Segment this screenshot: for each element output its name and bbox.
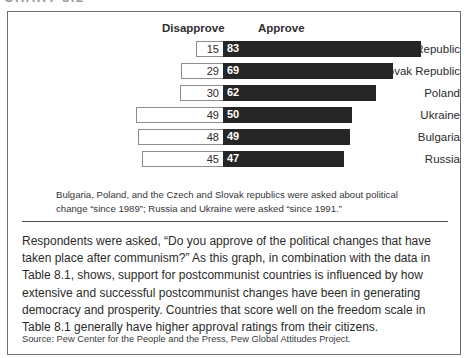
row-bars-poland: 30 62 — [8, 85, 460, 101]
bar-value-approve-slovak-republic: 69 — [227, 64, 239, 77]
bar-value-disapprove-bulgaria: 48 — [207, 131, 219, 144]
source-line: Source: Pew Center for the People and th… — [22, 333, 446, 345]
chart-column-headers: Disapprove Approve — [8, 22, 460, 40]
horizontal-divider — [22, 221, 448, 222]
chart-plot-area: Czech Republic 15 83 Slovak Republic 29 … — [8, 41, 460, 173]
figure-caption: Respondents were asked, “Do you approve … — [22, 233, 446, 336]
bar-approve-czech-republic: 83 — [223, 41, 421, 57]
column-header-disapprove: Disapprove — [162, 22, 225, 34]
bar-value-disapprove-ukraine: 49 — [207, 109, 219, 122]
row-bars-ukraine: 49 50 — [8, 107, 460, 123]
row-bars-russia: 45 47 — [8, 151, 460, 167]
bar-value-approve-poland: 62 — [227, 86, 239, 99]
row-bars-bulgaria: 48 49 — [8, 129, 460, 145]
bar-disapprove-russia: 45 — [142, 151, 223, 167]
bar-value-approve-czech-republic: 83 — [227, 42, 239, 55]
bar-approve-russia: 47 — [223, 151, 344, 167]
figure-number-strip: CHART 8.2 — [0, 0, 468, 9]
bar-disapprove-ukraine: 49 — [136, 107, 223, 123]
figure-number-label: CHART 8.2 — [4, 0, 85, 5]
bar-disapprove-czech-republic: 15 — [196, 41, 223, 57]
bar-value-disapprove-czech-republic: 15 — [207, 43, 219, 56]
bar-value-approve-russia: 47 — [227, 152, 239, 165]
table-row: Slovak Republic 29 69 — [8, 63, 460, 85]
bar-approve-ukraine: 50 — [223, 107, 352, 123]
table-row: Czech Republic 15 83 — [8, 41, 460, 63]
table-row: Ukraine 49 50 — [8, 107, 460, 129]
row-bars-slovak-republic: 29 69 — [8, 63, 460, 79]
table-row: Bulgaria 48 49 — [8, 129, 460, 151]
bar-approve-slovak-republic: 69 — [223, 63, 393, 79]
column-header-approve: Approve — [258, 22, 305, 34]
bar-value-disapprove-poland: 30 — [207, 87, 219, 100]
bar-value-approve-ukraine: 50 — [227, 108, 239, 121]
bar-value-disapprove-slovak-republic: 29 — [207, 65, 219, 78]
bar-approve-bulgaria: 49 — [223, 129, 350, 145]
bar-disapprove-slovak-republic: 29 — [181, 63, 223, 79]
bar-disapprove-bulgaria: 48 — [138, 129, 223, 145]
chart-footnote: Bulgaria, Poland, and the Czech and Slov… — [56, 188, 426, 215]
bar-value-approve-bulgaria: 49 — [227, 130, 239, 143]
row-bars-czech-republic: 15 83 — [8, 41, 460, 57]
table-row: Poland 30 62 — [8, 85, 460, 107]
bar-approve-poland: 62 — [223, 85, 376, 101]
table-row: Russia 45 47 — [8, 151, 460, 173]
bar-disapprove-poland: 30 — [180, 85, 223, 101]
figure-box: Disapprove Approve Czech Republic 15 83 … — [7, 11, 461, 355]
bar-value-disapprove-russia: 45 — [207, 153, 219, 166]
